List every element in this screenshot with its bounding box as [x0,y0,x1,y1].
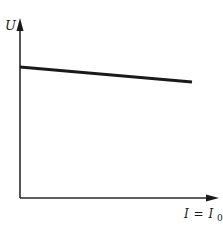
y-axis-label: U [5,18,17,33]
x-axis-label-main: I [183,207,189,221]
x-axis-arrow-icon [206,195,219,202]
x-axis-label: I = I 0 [183,207,223,223]
u-line [20,67,192,82]
y-axis-arrow-icon [17,18,24,31]
x-axis-label-sub: 0 [217,213,223,223]
x-axis-label-eq: = [194,207,204,221]
x-axis-label-rhs: I [207,207,213,221]
diagram-canvas: U I = I 0 [0,0,223,229]
